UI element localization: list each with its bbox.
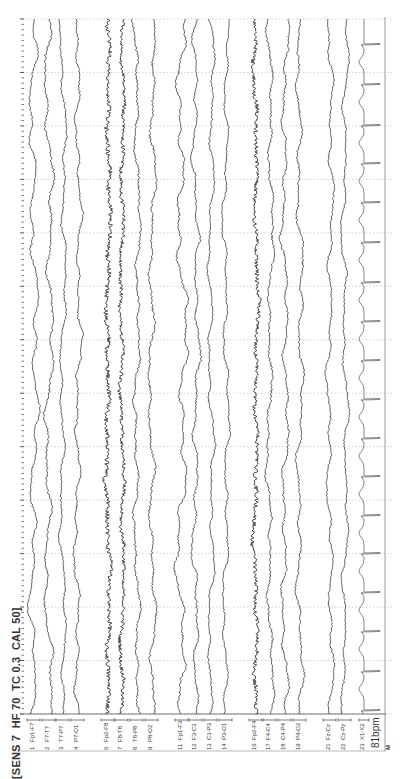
- channel-number: 19: [295, 743, 301, 750]
- channel-number: 14: [221, 743, 227, 750]
- eeg-trace-fp2-f8: [103, 19, 113, 714]
- channel-label-fp1-f3[interactable]: Fp1-F3: [177, 721, 183, 740]
- channel-number: 21: [325, 743, 331, 750]
- channel-number: 23: [359, 743, 365, 750]
- channel-number: 9: [147, 747, 153, 750]
- channel-label-p8-o2[interactable]: P8-O2: [147, 725, 153, 742]
- channel-label-p7-o1[interactable]: P7-O1: [73, 725, 79, 742]
- eeg-trace-p3-o1: [221, 19, 230, 714]
- eeg-trace-f3-c3: [190, 19, 201, 714]
- channel-number: 7: [117, 747, 123, 750]
- channel-number: 16: [251, 743, 257, 750]
- channel-number: 6: [103, 747, 109, 750]
- eeg-trace-fp1-f7: [27, 19, 40, 714]
- channel-label-f7-t7[interactable]: F7-T7: [44, 726, 50, 742]
- channel-label-f8-t8[interactable]: F8-T8: [117, 726, 123, 742]
- recording-settings-header: [SENS 7 HF 70 TC 0.3 CAL 50]: [10, 589, 24, 779]
- channel-label-fp2-f4[interactable]: Fp2-F4: [251, 721, 257, 740]
- channel-label-x1-x2[interactable]: X1-X2: [359, 723, 365, 740]
- eeg-trace-t8-p8: [131, 19, 142, 714]
- channel-number: 11: [177, 744, 183, 750]
- channel-label-f3-c3[interactable]: F3-C3: [191, 723, 197, 740]
- ecg-trace: [359, 19, 380, 714]
- channel-label-t8-p8[interactable]: T8-P8: [132, 726, 138, 742]
- channel-label-t7-p7[interactable]: T7-P7: [58, 726, 64, 742]
- heart-rate-label: 81bpm: [370, 717, 381, 748]
- channel-label-p4-o2[interactable]: P4-O2: [295, 723, 301, 740]
- channel-number: 4: [73, 747, 79, 750]
- eeg-trace-fp1-f3: [174, 19, 189, 714]
- channel-number: 22: [340, 743, 346, 750]
- channel-label-cz-pz[interactable]: Cz-Pz: [340, 724, 346, 740]
- eeg-trace-cz-pz: [340, 19, 349, 714]
- eeg-trace-f4-c4: [265, 19, 276, 714]
- channel-number: 17: [265, 743, 271, 750]
- montage-marker[interactable]: M: [385, 745, 391, 750]
- eeg-trace-p8-o2: [147, 19, 157, 714]
- channel-number: 12: [191, 743, 197, 750]
- eeg-trace-c3-p3: [207, 19, 216, 714]
- eeg-trace-fz-cz: [325, 19, 335, 714]
- eeg-trace-p4-o2: [295, 19, 306, 714]
- channel-number: 8: [132, 747, 138, 750]
- channel-label-fp1-f7[interactable]: Fp1-F7: [29, 723, 35, 742]
- channel-label-fz-cz[interactable]: Fz-Cz: [325, 724, 331, 740]
- channel-label-c3-p3[interactable]: C3-P3: [206, 723, 212, 740]
- channel-label-p3-o1[interactable]: P3-O1: [221, 723, 227, 740]
- channel-label-f4-c4[interactable]: F4-C4: [265, 723, 271, 740]
- channel-number: 1: [29, 747, 35, 750]
- channel-number: 2: [44, 747, 50, 750]
- channel-label-fp2-f8[interactable]: Fp2-F8: [103, 723, 109, 742]
- eeg-trace-c4-p4: [279, 19, 290, 714]
- eeg-trace-t7-p7: [58, 19, 67, 714]
- channel-label-c4-p4[interactable]: C4-P4: [280, 723, 286, 740]
- channel-number: 3: [58, 747, 64, 750]
- eeg-trace-f7-t7: [43, 19, 55, 714]
- channel-number: 13: [206, 743, 212, 750]
- eeg-trace-p7-o1: [73, 19, 84, 714]
- channel-number: 18: [280, 743, 286, 750]
- eeg-trace-fp2-f4: [250, 19, 261, 714]
- eeg-trace-f8-t8: [117, 19, 126, 714]
